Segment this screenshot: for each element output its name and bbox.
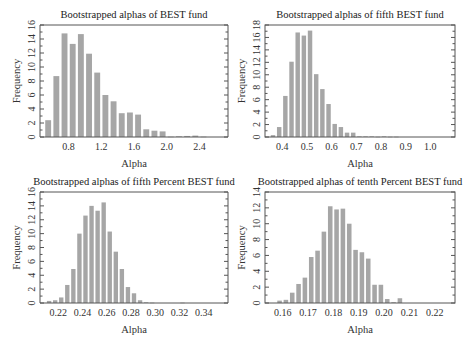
histogram-bar	[339, 127, 343, 137]
histogram-bar	[119, 113, 125, 137]
histogram-bar	[70, 44, 76, 137]
y-tick-label: 4	[26, 273, 37, 278]
y-tick-label: 12	[26, 215, 37, 225]
chart-fifth-percent-best-fund: Bootstrapped alphas of fifth Percent BES…	[0, 170, 235, 341]
histogram-bar	[65, 285, 69, 303]
histogram-bar	[77, 234, 81, 303]
x-tick-label: 0.19	[350, 307, 368, 318]
histogram-bar	[277, 127, 281, 137]
x-axis-label: Alpha	[121, 158, 147, 169]
histogram-bar	[295, 32, 299, 137]
chart-fifth-best-fund: Bootstrapped alphas of fifth BEST fund02…	[235, 0, 470, 170]
histogram-fifth-percent-best-fund: Bootstrapped alphas of fifth Percent BES…	[0, 170, 235, 341]
x-tick-label: 0.26	[98, 307, 116, 318]
histogram-bar	[328, 206, 333, 303]
histogram-bar	[111, 101, 117, 137]
y-tick-label: 16	[251, 32, 262, 42]
histogram-bar	[126, 287, 130, 303]
x-tick-label: 1.0	[424, 141, 437, 152]
y-tick-label: 0	[251, 301, 262, 306]
histogram-bar	[53, 76, 59, 137]
histogram-bar	[290, 293, 295, 303]
x-tick-label: 0.30	[146, 307, 164, 318]
y-tick-label: 14	[26, 34, 37, 44]
x-tick-label: 0.16	[274, 307, 292, 318]
x-tick-label: 0.20	[375, 307, 393, 318]
y-tick-label: 16	[26, 187, 37, 197]
y-tick-label: 6	[251, 97, 262, 102]
histogram-bar	[89, 206, 93, 303]
histogram-bar	[366, 259, 371, 303]
histogram-bar	[332, 124, 336, 137]
histogram-bar	[132, 293, 136, 303]
x-tick-label: 0.22	[49, 307, 67, 318]
histogram-bar	[334, 209, 339, 303]
x-tick-label: 2.0	[160, 141, 173, 152]
y-tick-label: 14	[26, 201, 37, 211]
histogram-bar	[143, 129, 149, 137]
histogram-bar	[345, 133, 349, 137]
histogram-bar	[45, 120, 51, 137]
histogram-bar	[351, 133, 355, 137]
x-tick-label: 0.22	[426, 307, 444, 318]
histogram-bar	[372, 285, 377, 303]
y-tick-label: 10	[251, 219, 262, 229]
x-tick-label: 2.4	[193, 141, 206, 152]
y-tick-label: 8	[26, 79, 37, 84]
histogram-bar	[347, 224, 352, 303]
histogram-bar	[101, 202, 105, 303]
y-tick-label: 12	[26, 48, 37, 58]
histogram-bar	[341, 209, 346, 303]
histogram-bar	[83, 216, 87, 303]
x-tick-label: 0.18	[325, 307, 343, 318]
y-tick-label: 4	[251, 269, 262, 274]
y-tick-label: 6	[251, 253, 262, 258]
y-tick-label: 2	[26, 287, 37, 292]
y-tick-label: 14	[251, 187, 262, 197]
histogram-bar	[322, 232, 327, 303]
histogram-bar	[120, 269, 124, 303]
y-tick-label: 14	[251, 45, 262, 55]
y-axis-label: Frequency	[11, 58, 22, 103]
x-tick-label: 1.2	[95, 141, 108, 152]
x-tick-label: 0.9	[399, 141, 412, 152]
y-tick-label: 6	[26, 93, 37, 98]
y-tick-label: 8	[251, 85, 262, 90]
y-tick-label: 8	[26, 245, 37, 250]
x-tick-label: 0.21	[401, 307, 419, 318]
x-tick-label: 0.34	[195, 307, 213, 318]
y-tick-label: 16	[26, 20, 37, 30]
histogram-bar	[59, 297, 63, 303]
chart-best-fund: Bootstrapped alphas of BEST fund02468101…	[0, 0, 235, 170]
histogram-bar	[308, 31, 312, 137]
chart-title: Bootstrapped alphas of tenth Percent BES…	[258, 176, 463, 187]
x-axis-label: Alpha	[121, 324, 147, 335]
histogram-bar	[315, 251, 320, 303]
chart-title: Bootstrapped alphas of BEST fund	[61, 9, 209, 20]
histogram-bar	[160, 131, 166, 137]
x-tick-label: 0.32	[171, 307, 189, 318]
y-tick-label: 0	[251, 135, 262, 140]
histogram-bar	[114, 252, 118, 303]
histogram-bar	[309, 257, 314, 303]
y-tick-label: 0	[26, 135, 37, 140]
x-tick-label: 0.8	[375, 141, 388, 152]
plot-frame	[40, 25, 228, 137]
histogram-bar	[385, 299, 390, 303]
y-tick-label: 6	[26, 259, 37, 264]
histogram-bar	[303, 278, 308, 303]
histogram-fifth-best-fund: Bootstrapped alphas of fifth BEST fund02…	[235, 0, 470, 170]
y-axis-label: Frequency	[236, 58, 247, 103]
y-tick-label: 2	[251, 285, 262, 290]
y-tick-label: 10	[251, 70, 262, 80]
histogram-bar	[102, 95, 108, 137]
histogram-bar	[326, 104, 330, 137]
histogram-bar	[94, 73, 100, 137]
x-tick-label: 0.28	[122, 307, 140, 318]
histogram-bar	[283, 96, 287, 137]
x-tick-label: 0.5	[301, 141, 314, 152]
histogram-bar	[108, 232, 112, 303]
histogram-bar	[320, 89, 324, 137]
y-tick-label: 18	[251, 20, 262, 30]
histogram-bar	[71, 269, 75, 303]
